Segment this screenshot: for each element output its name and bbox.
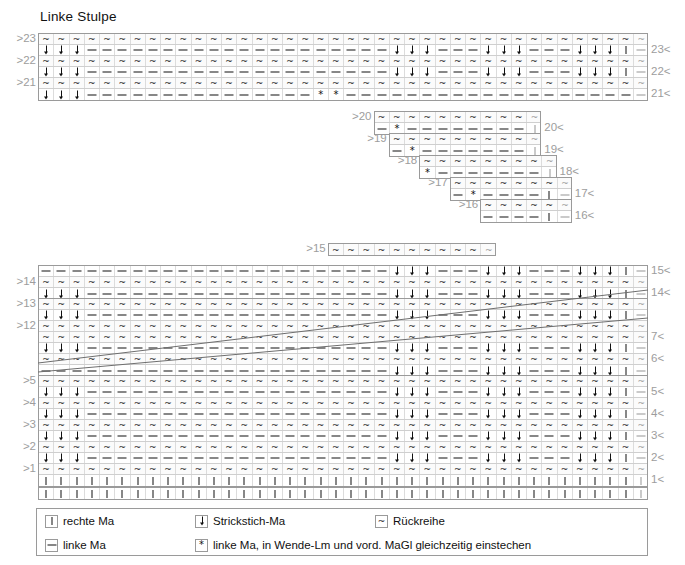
chart-cell bbox=[375, 453, 390, 463]
legend-item-purl: linke Ma bbox=[45, 539, 195, 552]
tilde-glyph: ~ bbox=[408, 322, 416, 331]
purl-glyph bbox=[453, 194, 462, 195]
chart-cell: ~ bbox=[512, 376, 527, 386]
chart-row bbox=[39, 45, 647, 56]
down-arrow-glyph bbox=[408, 267, 416, 276]
purl-glyph bbox=[118, 271, 127, 272]
tilde-glyph: ~ bbox=[378, 399, 386, 408]
chart-cell bbox=[54, 310, 69, 320]
row-label-19: 19< bbox=[544, 143, 564, 155]
purl-glyph bbox=[87, 94, 96, 95]
purl-glyph bbox=[560, 72, 569, 73]
chart-cell: ~ bbox=[298, 398, 313, 408]
tilde-glyph: ~ bbox=[515, 399, 523, 408]
down-arrow-glyph bbox=[73, 90, 81, 99]
tilde-glyph: ~ bbox=[317, 333, 325, 342]
tilde-glyph: ~ bbox=[515, 465, 523, 474]
tilde-glyph: ~ bbox=[88, 322, 96, 331]
down-arrow-glyph bbox=[408, 344, 416, 353]
tilde-glyph: ~ bbox=[134, 322, 142, 331]
down-arrow-glyph bbox=[591, 432, 599, 441]
tilde-glyph: ~ bbox=[546, 333, 554, 342]
tilde-glyph: ~ bbox=[500, 278, 508, 287]
purl-glyph bbox=[270, 370, 279, 371]
chart-cell: ~ bbox=[375, 277, 390, 287]
chart-cell bbox=[420, 431, 435, 441]
purl-glyph bbox=[438, 370, 447, 371]
knit-glyph bbox=[198, 490, 199, 498]
down-arrow-glyph bbox=[393, 432, 401, 441]
tilde-glyph: ~ bbox=[393, 399, 401, 408]
tilde-glyph: ~ bbox=[241, 57, 249, 66]
chart-cell bbox=[176, 387, 191, 397]
chart-cell bbox=[375, 45, 390, 55]
down-arrow-glyph bbox=[606, 454, 614, 463]
chart-cell: ~ bbox=[619, 299, 634, 309]
purl-glyph bbox=[453, 414, 462, 415]
chart-cell: ~ bbox=[192, 56, 207, 66]
purl-glyph bbox=[377, 50, 386, 51]
tilde-glyph: ~ bbox=[347, 333, 355, 342]
tilde-glyph: ~ bbox=[546, 35, 554, 44]
knit-glyph bbox=[625, 367, 626, 375]
down-arrow-glyph bbox=[42, 289, 50, 298]
tilde-glyph: ~ bbox=[408, 355, 416, 364]
tilde-glyph: ~ bbox=[332, 245, 340, 254]
chart-cell: ~ bbox=[405, 464, 420, 474]
chart-cell: ~ bbox=[207, 56, 222, 66]
chart-cell: ~ bbox=[375, 420, 390, 430]
purl-glyph bbox=[621, 94, 630, 95]
tilde-glyph: ~ bbox=[363, 278, 371, 287]
purl-glyph bbox=[560, 458, 569, 459]
chart-cell: ~ bbox=[390, 112, 405, 122]
chart-cell: ~ bbox=[146, 299, 161, 309]
chart-cell: ~ bbox=[39, 442, 54, 452]
chart-cell: ~ bbox=[420, 354, 435, 364]
chart-cell: ~ bbox=[603, 354, 618, 364]
tilde-glyph: ~ bbox=[164, 79, 172, 88]
chart-cell bbox=[222, 67, 237, 77]
tilde-glyph: ~ bbox=[408, 79, 416, 88]
down-arrow-glyph bbox=[591, 344, 599, 353]
tilde-glyph: ~ bbox=[576, 300, 584, 309]
tilde-glyph: ~ bbox=[638, 355, 646, 364]
knit-glyph bbox=[91, 477, 92, 485]
chart-cell: ~ bbox=[405, 442, 420, 452]
tilde-glyph: ~ bbox=[454, 443, 462, 452]
chart-cell: ~ bbox=[268, 376, 283, 386]
tilde-glyph: ~ bbox=[73, 443, 81, 452]
purl-glyph bbox=[148, 392, 157, 393]
chart-band-wedge-block: ~~~~~~~~~~~~~~~~~~~~~~~~~~~~~~~~~~~~~~~~… bbox=[38, 298, 648, 377]
chart-cell bbox=[115, 431, 130, 441]
down-arrow-glyph bbox=[408, 454, 416, 463]
chart-row: ~~~~~~~~~~~~~~~~~~~~~~~~~~~~~~~~~~~~~~~~ bbox=[39, 321, 647, 332]
tilde-glyph: ~ bbox=[286, 35, 294, 44]
chart-cell: ~ bbox=[619, 56, 634, 66]
purl-glyph bbox=[438, 271, 447, 272]
purl-glyph bbox=[469, 50, 478, 51]
tilde-glyph: ~ bbox=[149, 322, 157, 331]
tilde-glyph: ~ bbox=[622, 322, 630, 331]
purl-glyph bbox=[530, 194, 539, 195]
chart-cell: ~ bbox=[634, 398, 649, 408]
chart-cell bbox=[298, 409, 313, 419]
tilde-glyph: ~ bbox=[622, 278, 630, 287]
tilde-glyph: ~ bbox=[195, 278, 203, 287]
chart-cell: ~ bbox=[466, 156, 481, 166]
tilde-glyph: ~ bbox=[210, 79, 218, 88]
chart-cell: ~ bbox=[497, 332, 512, 342]
tilde-glyph: ~ bbox=[515, 79, 523, 88]
tilde-glyph: ~ bbox=[195, 35, 203, 44]
purl-glyph bbox=[347, 271, 356, 272]
chart-cell: ~ bbox=[85, 464, 100, 474]
tilde-glyph: ~ bbox=[485, 79, 493, 88]
chart-cell: ~ bbox=[420, 78, 435, 88]
tilde-glyph: ~ bbox=[149, 300, 157, 309]
tilde-glyph: ~ bbox=[515, 355, 523, 364]
purl-glyph bbox=[377, 94, 386, 95]
chart-cell: ~ bbox=[344, 442, 359, 452]
chart-cell bbox=[436, 475, 451, 486]
tilde-glyph: ~ bbox=[408, 465, 416, 474]
down-arrow-glyph bbox=[591, 267, 599, 276]
tilde-glyph: ~ bbox=[88, 443, 96, 452]
